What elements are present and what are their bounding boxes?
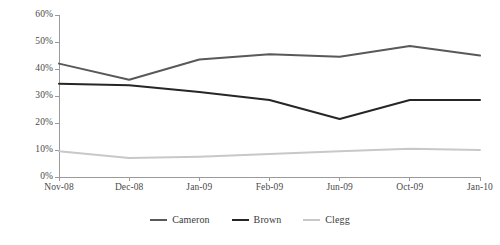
legend-swatch-icon bbox=[303, 219, 320, 221]
legend-label: Brown bbox=[254, 214, 282, 225]
x-axis-tick-label: Nov-08 bbox=[29, 182, 89, 192]
line-chart: 0%10%20%30%40%50%60% Nov-08Dec-08Jan-09F… bbox=[0, 0, 500, 245]
legend-swatch-icon bbox=[232, 219, 249, 221]
legend-label: Cameron bbox=[172, 214, 209, 225]
legend-item-clegg[interactable]: Clegg bbox=[303, 214, 349, 225]
legend-item-cameron[interactable]: Cameron bbox=[150, 214, 209, 225]
legend-label: Clegg bbox=[325, 214, 349, 225]
series-line-brown bbox=[59, 84, 480, 119]
legend-swatch-icon bbox=[150, 219, 167, 221]
x-axis-tick-label: Jan-10 bbox=[450, 182, 500, 192]
chart-legend: CameronBrownClegg bbox=[0, 214, 500, 225]
x-axis-tick-label: Jan-09 bbox=[169, 182, 229, 192]
series-line-cameron bbox=[59, 46, 480, 80]
series-group bbox=[59, 46, 480, 158]
chart-canvas bbox=[0, 0, 500, 245]
x-axis-tick-label: Dec-08 bbox=[99, 182, 159, 192]
x-axis-tick-label: Oct-09 bbox=[380, 182, 440, 192]
x-axis-tick-label: Jun-09 bbox=[310, 182, 370, 192]
legend-item-brown[interactable]: Brown bbox=[232, 214, 282, 225]
series-line-clegg bbox=[59, 149, 480, 158]
x-axis-label-group: Nov-08Dec-08Jan-09Feb-09Jun-09Oct-09Jan-… bbox=[59, 182, 480, 198]
x-axis-tick-label: Feb-09 bbox=[240, 182, 300, 192]
